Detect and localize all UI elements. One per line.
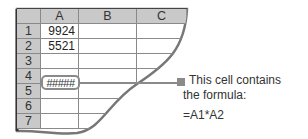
square-bullet-icon bbox=[177, 78, 185, 86]
column-header-a[interactable]: A bbox=[41, 9, 79, 24]
cell-b1[interactable] bbox=[79, 24, 137, 39]
select-all-corner[interactable] bbox=[17, 9, 41, 24]
cell-b2[interactable] bbox=[79, 39, 137, 54]
cell-a7[interactable] bbox=[41, 114, 79, 129]
cell-a4-highlighted[interactable]: ##### bbox=[41, 75, 80, 90]
row-header-3[interactable]: 3 bbox=[17, 54, 41, 69]
cell-a1[interactable]: 9924 bbox=[41, 24, 79, 39]
cell-b3[interactable] bbox=[79, 54, 137, 69]
row-header-7[interactable]: 7 bbox=[17, 114, 41, 129]
spreadsheet-illustration: A B C 1 9924 2 5521 3 4 5 6 7 bbox=[0, 0, 200, 139]
cell-c1[interactable] bbox=[137, 24, 187, 39]
callout-text-line2: the formula: bbox=[183, 88, 246, 103]
row-header-5[interactable]: 5 bbox=[17, 84, 41, 99]
callout-text-line1: This cell contains bbox=[189, 73, 281, 88]
callout-leader-line bbox=[80, 82, 180, 84]
callout-formula: =A1*A2 bbox=[183, 108, 224, 122]
cell-a6[interactable] bbox=[41, 99, 79, 114]
row-header-6[interactable]: 6 bbox=[17, 99, 41, 114]
row-header-1[interactable]: 1 bbox=[17, 24, 41, 39]
cell-a2[interactable]: 5521 bbox=[41, 39, 79, 54]
column-header-b[interactable]: B bbox=[79, 9, 137, 24]
cell-a3[interactable] bbox=[41, 54, 79, 69]
row-header-4[interactable]: 4 bbox=[17, 69, 41, 84]
row-header-2[interactable]: 2 bbox=[17, 39, 41, 54]
column-header-c[interactable]: C bbox=[137, 9, 187, 24]
